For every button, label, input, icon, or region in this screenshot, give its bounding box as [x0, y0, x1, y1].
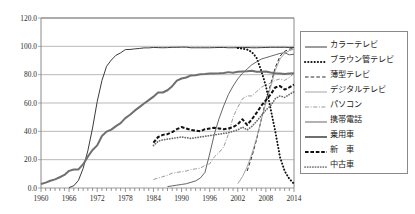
y-axis-tick-label: 80.0 [24, 70, 37, 79]
legend-item: 中古車 [304, 155, 405, 170]
legend-item: 乗用車 [304, 125, 405, 140]
legend-item: カラーテレビ [304, 35, 405, 50]
y-axis-tick-label: 60.0 [24, 99, 37, 108]
legend-item: 薄型テレビ [304, 65, 405, 80]
y-axis-tick-label: 120.0 [20, 14, 37, 23]
series-line-4 [153, 73, 294, 179]
x-axis-tick-label: 1996 [202, 194, 217, 203]
legend-item: 携帯電話 [304, 110, 405, 125]
legend-item-label: 新 車 [330, 142, 354, 154]
series-line-1 [238, 48, 294, 184]
legend-item: 新 車 [304, 140, 405, 155]
legend-item-label: ブラウン管テレビ [330, 52, 394, 64]
legend-swatch-icon [304, 143, 328, 153]
legend-item: デジタルテレビ [304, 80, 405, 95]
legend-item-label: パソコン [330, 97, 362, 109]
y-axis-tick-label: 40.0 [24, 127, 37, 136]
y-axis-tick-label: 20.0 [24, 155, 37, 164]
legend-item-label: 携帯電話 [330, 112, 362, 124]
legend-item-label: カラーテレビ [330, 37, 378, 49]
x-axis-tick-label: 1990 [174, 194, 189, 203]
x-axis-tick-label: 1960 [34, 194, 49, 203]
x-axis-tick-label: 1978 [118, 194, 133, 203]
series-line-8 [153, 92, 294, 146]
legend-swatch-icon [304, 68, 328, 78]
y-axis-tick-label: 0.0 [28, 184, 38, 193]
legend-item-label: 薄型テレビ [330, 67, 370, 79]
x-axis-tick-label: 2008 [258, 194, 273, 203]
legend-swatch-icon [304, 113, 328, 123]
legend-swatch-icon [304, 98, 328, 108]
diffusion-rate-line-chart: 0.020.040.060.080.0100.0120.019601966197… [0, 0, 415, 214]
legend-swatch-icon [304, 53, 328, 63]
series-line-6 [41, 71, 294, 184]
chart-legend: カラーテレビブラウン管テレビ薄型テレビデジタルテレビパソコン携帯電話乗用車新 車… [300, 31, 408, 174]
legend-swatch-icon [304, 38, 328, 48]
y-axis-tick-label: 100.0 [20, 42, 37, 51]
x-axis-tick-label: 2014 [287, 194, 302, 203]
legend-item-label: 中古車 [330, 157, 354, 169]
legend-swatch-icon [304, 128, 328, 138]
legend-item: パソコン [304, 95, 405, 110]
legend-item-label: 乗用車 [330, 127, 354, 139]
legend-item: ブラウン管テレビ [304, 50, 405, 65]
x-axis-tick-label: 1984 [146, 194, 161, 203]
legend-swatch-icon [304, 158, 328, 168]
x-axis-tick-label: 2002 [230, 194, 245, 203]
legend-item-label: デジタルテレビ [330, 82, 386, 94]
x-axis-tick-label: 1966 [62, 194, 77, 203]
x-axis-tick-label: 1972 [90, 194, 105, 203]
legend-swatch-icon [304, 83, 328, 93]
